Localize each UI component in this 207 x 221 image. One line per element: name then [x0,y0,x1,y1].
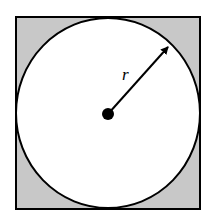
inscribed-circle-diagram: r [0,0,207,221]
radius-label: r [122,65,129,84]
center-dot [102,108,114,120]
